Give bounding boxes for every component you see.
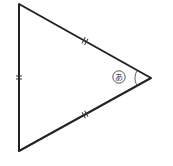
angle-label-text: あ [115,73,123,82]
triangle-outline [19,4,151,151]
angle-arc [135,70,137,86]
triangle-diagram: あ [0,0,173,166]
angle-label: あ [113,71,125,83]
